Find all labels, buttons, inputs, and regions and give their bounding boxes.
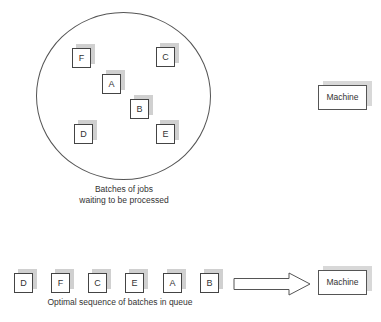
- job-label: D: [74, 124, 93, 144]
- queue-job-3: C: [88, 273, 107, 293]
- queue-caption: Optimal sequence of batches in queue: [20, 297, 220, 308]
- machine-top: Machine: [318, 85, 367, 110]
- job-label: F: [51, 273, 70, 293]
- pool-job-b: B: [130, 99, 149, 119]
- job-label: C: [156, 47, 175, 67]
- pool-job-c: C: [156, 47, 175, 67]
- pool-caption-line1: Batches of jobs: [64, 184, 184, 195]
- machine-label: Machine: [318, 270, 367, 295]
- job-label: A: [163, 273, 182, 293]
- job-label: C: [88, 273, 107, 293]
- pool-caption: Batches of jobs waiting to be processed: [64, 184, 184, 206]
- queue-job-5: A: [163, 273, 182, 293]
- arrow-right-icon: [233, 272, 313, 296]
- job-label: B: [200, 273, 219, 293]
- machine-label: Machine: [318, 85, 367, 110]
- job-label: B: [130, 99, 149, 119]
- pool-job-f: F: [72, 48, 91, 68]
- job-label: A: [102, 74, 121, 94]
- machine-bottom: Machine: [318, 270, 367, 295]
- pool-job-a: A: [102, 74, 121, 94]
- job-label: E: [125, 273, 144, 293]
- pool-job-d: D: [74, 124, 93, 144]
- pool-job-e: E: [156, 124, 175, 144]
- queue-job-1: D: [14, 273, 33, 293]
- job-label: D: [14, 273, 33, 293]
- queue-job-2: F: [51, 273, 70, 293]
- queue-job-4: E: [125, 273, 144, 293]
- queue-job-6: B: [200, 273, 219, 293]
- job-pool-circle: [36, 12, 211, 180]
- pool-caption-line2: waiting to be processed: [64, 195, 184, 206]
- job-label: E: [156, 124, 175, 144]
- job-label: F: [72, 48, 91, 68]
